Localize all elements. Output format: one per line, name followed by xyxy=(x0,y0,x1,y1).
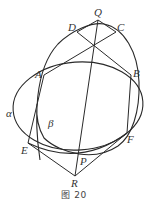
label-B: B xyxy=(133,67,140,79)
segment-AC xyxy=(44,32,116,75)
figure-canvas: Q D C A B E F P R α β xyxy=(0,0,148,206)
label-E: E xyxy=(20,144,28,156)
label-C: C xyxy=(117,21,125,33)
label-Q: Q xyxy=(94,6,102,18)
segment-QR xyxy=(75,20,98,176)
segment-BF xyxy=(127,75,131,133)
label-beta: β xyxy=(47,117,54,129)
figure-caption: 图 20 xyxy=(0,188,148,201)
label-alpha: α xyxy=(6,107,12,119)
segment-ER xyxy=(28,143,75,176)
segment-QC xyxy=(98,20,116,32)
label-D: D xyxy=(67,21,76,33)
label-F: F xyxy=(126,133,134,145)
geometry-figure: Q D C A B E F P R α β 图 20 xyxy=(0,0,148,206)
curve-alpha xyxy=(10,58,146,155)
segment-QD xyxy=(77,20,98,32)
segment-DB xyxy=(77,32,131,75)
label-A: A xyxy=(34,68,42,80)
label-P: P xyxy=(79,155,87,167)
